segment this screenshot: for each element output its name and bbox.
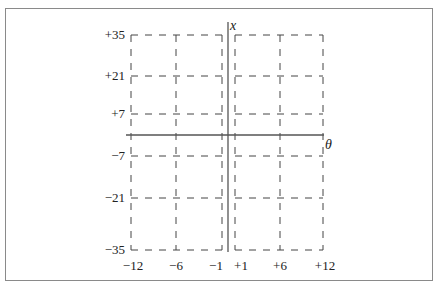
x-tick-label: −6 (169, 258, 183, 273)
axes (126, 22, 324, 252)
x-axis-label: x (229, 18, 237, 33)
x-tick-labels: −12−6−1+1+6+12 (123, 258, 335, 273)
x-tick-label: +6 (273, 258, 287, 273)
x-tick-label: −1 (209, 258, 223, 273)
theta-axis-label: θ (325, 137, 332, 152)
y-tick-label: +21 (105, 68, 125, 83)
y-tick-label: −21 (105, 190, 125, 205)
x-tick-label: +12 (315, 258, 335, 273)
x-tick-label: +1 (234, 258, 248, 273)
y-tick-labels: +35+21+7−7−21−35 (105, 27, 126, 257)
y-tick-label: +7 (111, 106, 125, 121)
y-tick-label: +35 (105, 27, 125, 42)
dashed-grid (131, 35, 323, 250)
y-tick-label: −35 (105, 242, 125, 257)
x-tick-label: −12 (123, 258, 143, 273)
grid-diagram: x θ +35+21+7−7−21−35 −12−6−1+1+6+12 (0, 0, 441, 292)
y-tick-label: −7 (111, 148, 125, 163)
